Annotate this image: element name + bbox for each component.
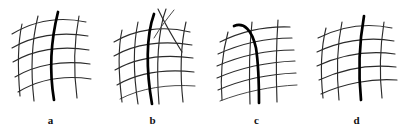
figure-container: a b xyxy=(0,0,407,137)
grid-curve-horizontal xyxy=(12,34,88,48)
highlighted-curve xyxy=(359,16,364,100)
grid-curve-vertical xyxy=(75,16,79,98)
grid-curve-horizontal xyxy=(18,78,91,92)
panel-c-grid xyxy=(206,0,307,112)
panel-a: a xyxy=(0,0,101,137)
grid-curve-vertical xyxy=(221,32,228,100)
grid-curve-vertical xyxy=(181,22,186,102)
highlighted-curve xyxy=(51,12,58,100)
panel-a-grid xyxy=(0,0,101,112)
grid-curve-vertical xyxy=(18,24,22,96)
panel-label-c: c xyxy=(206,113,307,127)
grid-curve-vertical xyxy=(337,22,342,100)
grid-curve-horizontal xyxy=(319,66,396,80)
grid-curve-horizontal xyxy=(217,61,295,78)
panel-label-b: b xyxy=(102,113,203,127)
panel-b: b xyxy=(102,0,203,137)
panel-b-grid xyxy=(102,0,203,112)
panel-d-horizontal-curves xyxy=(317,26,397,94)
grid-curve-horizontal xyxy=(218,73,296,90)
grid-curve-horizontal xyxy=(12,20,86,34)
panel-d: d xyxy=(306,0,407,137)
grid-curve-horizontal xyxy=(318,26,392,38)
grid-curve-horizontal xyxy=(114,29,190,42)
grid-curve-horizontal xyxy=(317,53,395,66)
grid-curve-vertical xyxy=(380,22,384,98)
panel-d-grid xyxy=(306,0,407,112)
highlighted-curve xyxy=(148,14,154,104)
panel-label-a: a xyxy=(0,113,101,127)
panel-a-vertical-curves xyxy=(18,16,79,101)
highlighted-curve xyxy=(234,25,259,103)
panel-c: c xyxy=(206,0,307,137)
panel-label-d: d xyxy=(306,113,407,127)
grid-curve-horizontal xyxy=(117,71,194,85)
grid-curve-vertical xyxy=(276,20,278,102)
grid-curve-vertical xyxy=(32,16,38,101)
grid-curve-horizontal xyxy=(317,39,394,52)
